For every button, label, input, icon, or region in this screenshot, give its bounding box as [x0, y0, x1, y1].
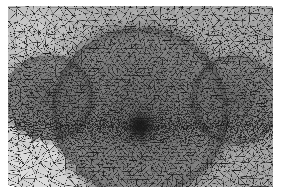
triangular-mesh-canvas [0, 0, 282, 193]
mesh-figure [0, 0, 282, 193]
